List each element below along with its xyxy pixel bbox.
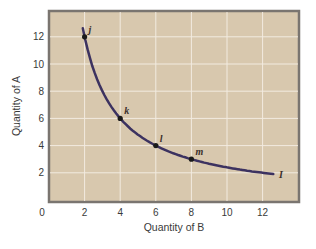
point-label-m: m (195, 146, 203, 157)
point-j (82, 34, 87, 39)
point-l (153, 143, 158, 148)
y-tick-label: 4 (38, 140, 44, 151)
y-tick-label: 2 (38, 167, 44, 178)
x-axis-ticks: 024681012 (39, 207, 268, 218)
x-tick-label: 10 (221, 207, 233, 218)
point-m (189, 157, 194, 162)
y-tick-label: 10 (33, 59, 45, 70)
point-label-l: l (160, 133, 163, 144)
y-axis-ticks: 24681012 (33, 31, 45, 178)
y-tick-label: 6 (38, 113, 44, 124)
point-k (118, 116, 123, 121)
x-tick-label: 12 (257, 207, 269, 218)
x-tick-label: 4 (117, 207, 123, 218)
x-tick-label: 6 (153, 207, 159, 218)
y-axis-label: Quantity of A (10, 76, 22, 136)
x-axis-label: Quantity of B (144, 221, 205, 233)
x-tick-label: 2 (82, 207, 88, 218)
x-tick-label: 8 (189, 207, 195, 218)
x-tick-label: 0 (39, 207, 45, 218)
y-tick-label: 12 (33, 31, 45, 42)
indifference-curve-chart: 024681012 24681012 jklm I Quantity of B … (0, 0, 316, 249)
y-tick-label: 8 (38, 86, 44, 97)
point-label-k: k (124, 105, 129, 116)
